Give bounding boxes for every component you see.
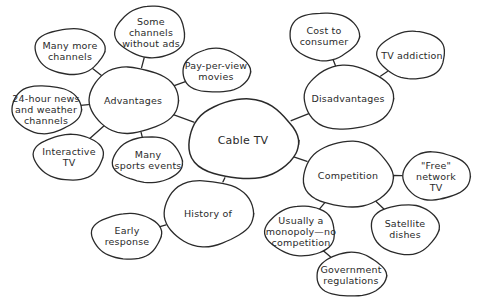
connector-adv-more — [93, 69, 103, 76]
connector-cable-comp — [293, 157, 307, 162]
node-label-noads: Some channels without ads — [122, 16, 180, 49]
connector-adv-noads — [142, 58, 145, 68]
node-label-adv: Advantages — [104, 95, 162, 106]
node-label-satellite: Satellite dishes — [385, 218, 426, 240]
node-label-sports: Many sports events — [115, 149, 182, 171]
connector-cable-disadv — [291, 114, 309, 121]
connector-adv-ppv — [174, 81, 186, 85]
node-label-interactive: Interactive TV — [42, 146, 95, 168]
connector-adv-sports — [141, 132, 142, 137]
connector-cable-adv — [173, 115, 193, 122]
node-label-ppv: Pay-per-view movies — [185, 60, 248, 82]
connector-adv-news — [81, 105, 89, 106]
connector-disadv-addiction — [381, 72, 388, 76]
node-label-comp: Competition — [318, 170, 378, 181]
node-label-early: Early response — [105, 225, 150, 247]
node-label-history: History of — [184, 208, 232, 219]
node-label-cable: Cable TV — [218, 135, 269, 146]
connector-cable-history — [223, 178, 225, 182]
connector-adv-interactive — [90, 125, 105, 138]
node-label-disadv: Disadvantages — [311, 93, 384, 104]
node-label-addiction: TV addiction — [381, 50, 443, 61]
node-label-monopoly: Usually a monopoly—no competition — [266, 215, 337, 248]
connector-comp-satellite — [376, 201, 385, 209]
node-label-news: 24-hour news and weather channels — [12, 93, 79, 126]
node-label-cost: Cost to consumer — [300, 25, 349, 47]
node-label-gov: Government regulations — [320, 264, 381, 286]
connector-monopoly-gov — [323, 250, 331, 257]
node-label-more: Many more channels — [42, 40, 97, 62]
node-label-free: "Free" network TV — [416, 160, 457, 193]
